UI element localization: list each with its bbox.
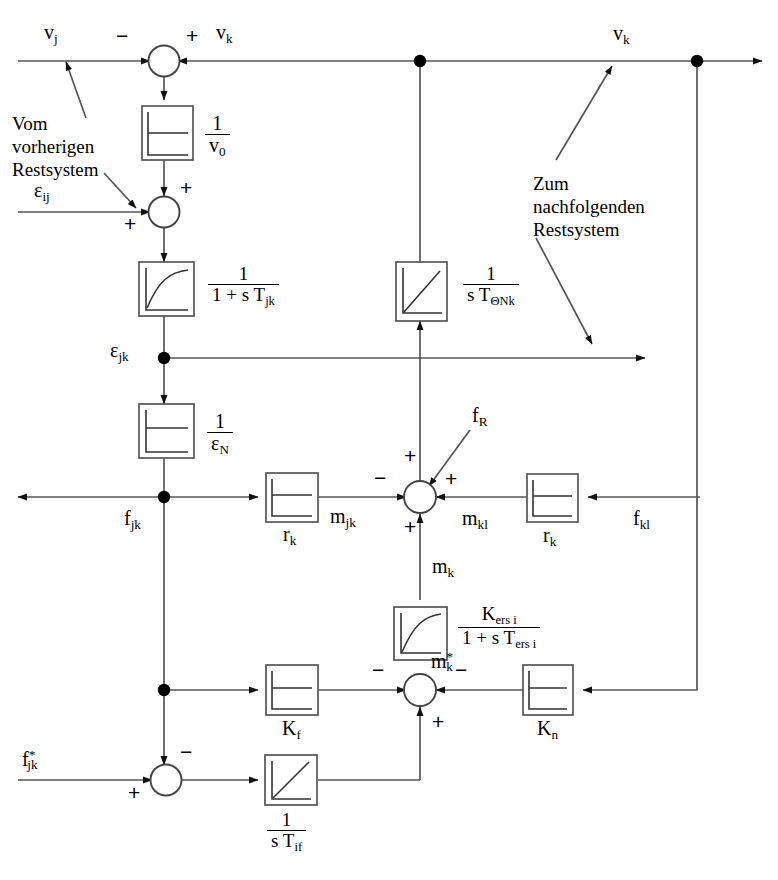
block-rkright-box xyxy=(527,474,578,522)
block-kf-box xyxy=(266,665,318,715)
sign-plus-summstar-bottom: + xyxy=(432,710,444,734)
sign-minus-summstar-left: − xyxy=(372,658,384,682)
sign-plus-summid-fR: + xyxy=(404,444,416,468)
label-vk-left: vk xyxy=(216,22,233,45)
sign-minus-summid-left: − xyxy=(374,466,386,490)
sign-minus-sumfjk: − xyxy=(180,740,192,764)
label-vj: vj xyxy=(44,22,58,45)
sign-minus-sumvk: − xyxy=(116,24,128,48)
sign-minus-summstar-right: − xyxy=(455,658,467,682)
node-dot-top-mid xyxy=(414,55,426,67)
leader-from-previous-down xyxy=(104,173,136,208)
annotation-from-previous-line2: vorherigen xyxy=(12,137,94,156)
label-fjk: fjk xyxy=(124,508,141,531)
leader-from-previous-up xyxy=(66,62,86,118)
wire-vk-to-kn xyxy=(583,61,697,690)
label-epsij: εij xyxy=(34,180,50,203)
annotation-from-previous-line1: Vom xyxy=(12,114,48,133)
label-vk-right: vk xyxy=(613,23,630,46)
sum-junction-mstar xyxy=(404,674,436,706)
block-label-rk-left: rk xyxy=(283,524,296,547)
annotation-to-next-line1: Zum xyxy=(533,174,569,193)
label-mk: mk xyxy=(432,556,454,579)
sum-junction-fjk xyxy=(151,765,182,796)
block-label-epsN: 1 εN xyxy=(207,411,233,457)
node-dot-fjk-lower xyxy=(158,684,170,696)
block-label-pt1ers: Kers i 1 + s Ters i xyxy=(458,604,540,651)
label-mkl: mkl xyxy=(462,508,488,531)
sign-plus-sumeps-left: + xyxy=(124,212,136,236)
label-epsjk: εjk xyxy=(110,340,129,363)
node-dot-top-right xyxy=(691,55,703,67)
block-label-intif: 1 s Tif xyxy=(267,810,306,854)
sign-plus-sumfjk: + xyxy=(128,781,140,805)
label-fkl: fkl xyxy=(633,508,650,531)
sign-plus-summid-bottom: + xyxy=(404,515,416,539)
annotation-to-next-line3: Restsystem xyxy=(533,220,620,239)
sign-plus-summid-right: + xyxy=(445,467,457,491)
label-mjk: mjk xyxy=(330,506,356,529)
node-dot-fjk xyxy=(158,491,170,503)
block-label-pt1jk: 1 1 + s Tjk xyxy=(208,264,279,308)
block-kn-box xyxy=(523,665,573,715)
sign-plus-sumeps-top: + xyxy=(180,176,192,200)
block-diagram-canvas: vj − + vk vk Vom vorherigen Restsystem 1… xyxy=(0,0,778,880)
annotation-to-next-line2: nachfolgenden xyxy=(533,197,645,216)
block-label-kn: Kn xyxy=(537,718,558,741)
diagram-wires xyxy=(0,0,778,880)
block-label-rk-right: rk xyxy=(543,525,556,548)
leader-to-next-down xyxy=(536,238,592,344)
leader-to-next-up xyxy=(556,66,612,160)
annotation-from-previous-line3: Restsystem xyxy=(12,160,99,179)
block-rkleft-box xyxy=(266,473,318,522)
sum-junction-vk xyxy=(149,46,180,77)
block-epsN-box xyxy=(139,404,194,458)
label-mkstar: m*k xyxy=(431,650,453,673)
sum-junction-eps xyxy=(149,197,180,228)
label-fR: fR xyxy=(472,405,487,428)
sum-junction-mid xyxy=(404,481,436,513)
block-label-intonk: 1 s TΘNk xyxy=(463,264,519,308)
sign-plus-sumvk: + xyxy=(186,24,198,48)
node-dot-epsjk xyxy=(158,352,170,364)
block-label-v0: 1 v0 xyxy=(205,113,230,159)
label-fjkstar: f*jk xyxy=(22,748,38,771)
block-label-kf: Kf xyxy=(282,718,301,741)
